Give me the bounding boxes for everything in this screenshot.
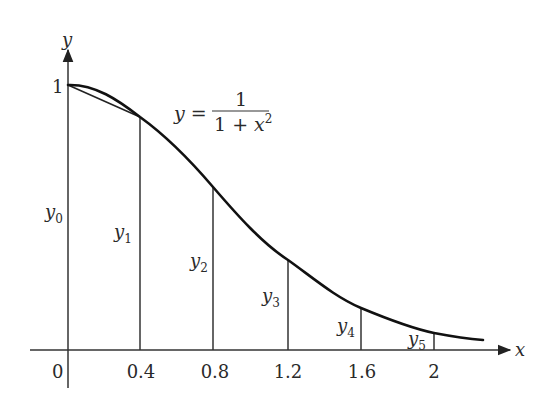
svg-text:1 + x2: 1 + x2 <box>214 112 272 135</box>
svg-text:y0: y0 <box>44 201 63 226</box>
ordinate-lines <box>140 117 434 350</box>
svg-text:y2: y2 <box>189 250 208 275</box>
equation: y = 1 1 + x2 <box>173 88 272 135</box>
svg-text:1: 1 <box>235 88 247 110</box>
svg-text:y =: y = <box>173 102 207 124</box>
y-tick-1: 1 <box>52 76 63 97</box>
svg-text:1.6: 1.6 <box>348 361 377 382</box>
svg-text:0.8: 0.8 <box>201 361 230 382</box>
x-tick-labels: 0.4 0.8 1.2 1.6 2 <box>127 361 440 382</box>
x-axis-label: x <box>515 339 525 360</box>
svg-text:y3: y3 <box>261 285 280 310</box>
origin-label: 0 <box>52 361 63 382</box>
trapezoid-chord <box>68 85 140 117</box>
ordinate-labels: y0 y1 y2 y3 y4 y5 <box>44 201 426 353</box>
y-axis-label: y <box>61 29 73 50</box>
svg-text:y4: y4 <box>336 315 355 340</box>
svg-text:0.4: 0.4 <box>127 361 156 382</box>
svg-text:1.2: 1.2 <box>274 361 303 382</box>
svg-text:y1: y1 <box>113 221 132 246</box>
diagram: y x 1 0 0.4 0.8 1.2 1.6 2 y0 y1 y2 y3 y4… <box>0 0 541 407</box>
svg-text:2: 2 <box>428 361 439 382</box>
